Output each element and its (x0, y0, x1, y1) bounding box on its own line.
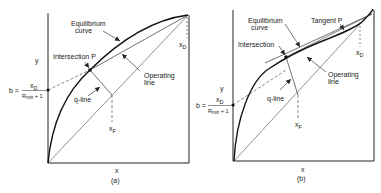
svg-text:xD: xD (216, 96, 224, 105)
panel-a-y-axis-label: y (35, 57, 39, 65)
panel-a-diagonal (48, 15, 188, 163)
panel-b-q-line (286, 57, 298, 95)
panel-a-qline-arrow (88, 87, 100, 96)
panel-a-equilibrium-arrow (103, 31, 120, 41)
svg-text:xD: xD (30, 82, 38, 91)
panel-a-caption: (a) (111, 177, 120, 185)
panel-b-intersection-point (284, 55, 288, 59)
panel-a-xd-label: xD (179, 41, 187, 50)
panel-b-diagonal (234, 10, 373, 161)
panel-a-operating-line-extension (48, 70, 90, 90)
panel-a-operating-label-2: line (144, 79, 155, 86)
panel-a-b-formula: b = xD Rmin + 1 (9, 82, 46, 100)
panel-b-y-axis-label: y (220, 85, 224, 93)
panel-b-intersection-label: Intersection (238, 41, 274, 48)
panel-a-q-line (90, 70, 112, 95)
panel-b-qline-label: q-line (267, 95, 284, 103)
panel-a-intersection-point (88, 68, 92, 72)
panel-b-x-axis-label: x (301, 166, 305, 173)
panel-b-operating-label-2: line (328, 78, 339, 85)
panel-b-b-point (231, 103, 234, 106)
svg-text:Rmin + 1: Rmin + 1 (22, 93, 43, 100)
svg-text:b =: b = (9, 87, 19, 94)
panel-b-qline-arrow (280, 79, 291, 90)
panel-a-equilibrium-label-2: curve (75, 27, 92, 34)
panel-b-equilibrium-label-2: curve (251, 24, 268, 31)
panel-b: Equilibrium curve Tangent P Intersection… (196, 9, 374, 183)
panel-a-xf-label: xF (109, 125, 117, 134)
svg-text:b =: b = (196, 102, 206, 109)
svg-text:Rmin + 1: Rmin + 1 (208, 108, 229, 115)
panel-b-xf-label: xF (295, 121, 303, 130)
panel-b-caption: (b) (297, 175, 306, 183)
panel-a-intersection-arrow (85, 62, 89, 68)
panel-a-x-axis-label: x (115, 167, 119, 174)
panel-a-qline-label: q-line (74, 96, 91, 104)
panel-b-tangent-label: Tangent P (311, 17, 343, 25)
panel-a-b-point (46, 88, 49, 91)
mccabe-thiele-figure: Equilibrium curve Intersection P Operati… (0, 0, 381, 193)
panel-a-operating-arrow (122, 54, 140, 71)
panel-a: Equilibrium curve Intersection P Operati… (9, 13, 189, 185)
panel-a-intersection-label: Intersection P (53, 53, 96, 60)
panel-b-xd-label: xD (356, 49, 364, 58)
panel-b-b-formula: b = xD Rmin + 1 (196, 96, 231, 115)
panel-b-equilibrium-arrow (285, 24, 300, 47)
panel-b-intersection-arrow (279, 46, 285, 55)
